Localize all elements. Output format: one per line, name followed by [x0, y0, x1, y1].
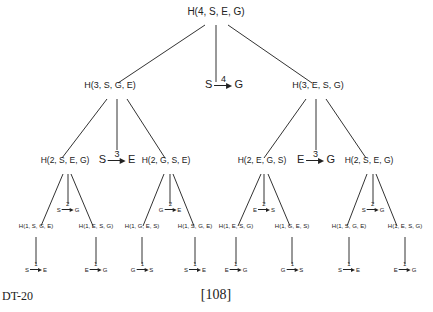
move-to-peg: G: [234, 78, 243, 90]
move-label: E1G: [85, 264, 108, 273]
level3-node: H(1, E, S, G): [219, 223, 253, 229]
move-from-peg: S: [25, 267, 29, 273]
right-arrow-icon: 3: [108, 153, 126, 165]
move-from-peg: E: [85, 267, 89, 273]
right-arrow-icon: 2: [367, 204, 379, 213]
move-to-peg: G: [243, 267, 248, 273]
move-to-peg: G: [103, 267, 108, 273]
move-label: G2E: [159, 204, 182, 213]
right-arrow-icon: 1: [30, 264, 42, 273]
level2-node: H(2, S, E, G): [41, 155, 90, 165]
move-step-number: 2: [66, 201, 69, 207]
move-label: S2G: [57, 204, 80, 213]
level3-node: H(1, E, S, G): [388, 223, 422, 229]
move-step-number: 1: [347, 261, 350, 267]
level2-node: H(2, G, S, E): [142, 155, 191, 165]
move-from-peg: E: [394, 267, 398, 273]
level3-node: H(1, S, G, E): [332, 223, 366, 229]
document-code: DT-20: [2, 289, 33, 304]
right-arrow-icon: 1: [90, 264, 102, 273]
move-to-peg: E: [202, 267, 206, 273]
right-arrow-icon: 2: [164, 204, 176, 213]
move-label: S4G: [205, 78, 243, 90]
move-label: S1E: [184, 264, 206, 273]
move-label: G1S: [131, 264, 154, 273]
move-from-peg: E: [297, 153, 304, 165]
level2-node: H(2, E, G, S): [238, 155, 287, 165]
move-label: E3G: [297, 153, 335, 165]
move-from-peg: S: [362, 207, 366, 213]
right-arrow-icon: 3: [306, 153, 324, 165]
move-label: G1S: [281, 264, 304, 273]
move-from-peg: G: [159, 207, 164, 213]
right-arrow-icon: 1: [189, 264, 201, 273]
level2-node: H(2, S, E, G): [345, 155, 394, 165]
root-node: H(4, S, E, G): [187, 6, 244, 17]
move-step-number: 2: [371, 201, 374, 207]
right-arrow-icon: 1: [136, 264, 148, 273]
move-from-peg: G: [131, 267, 136, 273]
level3-node: H(1, G, E, S): [275, 223, 309, 229]
move-step-number: 1: [193, 261, 196, 267]
right-arrow-icon: 1: [343, 264, 355, 273]
move-to-peg: E: [128, 153, 135, 165]
right-arrow-icon: 1: [399, 264, 411, 273]
move-to-peg: G: [412, 267, 417, 273]
move-from-peg: S: [338, 267, 342, 273]
move-from-peg: S: [99, 153, 106, 165]
right-arrow-icon: 2: [258, 204, 270, 213]
page-number: [108]: [201, 287, 231, 303]
move-from-peg: S: [184, 267, 188, 273]
move-to-peg: G: [380, 207, 385, 213]
right-arrow-icon: 4: [214, 78, 232, 90]
move-label: E2S: [253, 204, 275, 213]
level1-node: H(3, S, G, E): [84, 80, 136, 90]
move-from-peg: E: [253, 207, 257, 213]
move-step-number: 3: [313, 149, 318, 159]
move-step-number: 3: [114, 149, 119, 159]
move-step-number: 1: [34, 261, 37, 267]
move-to-peg: G: [75, 207, 80, 213]
move-to-peg: S: [299, 267, 303, 273]
move-to-peg: E: [177, 207, 181, 213]
move-label: S1E: [338, 264, 360, 273]
right-arrow-icon: 2: [62, 204, 74, 213]
move-to-peg: E: [43, 267, 47, 273]
move-to-peg: E: [356, 267, 360, 273]
move-step-number: 1: [403, 261, 406, 267]
level3-node: H(1, E, S, G): [79, 223, 113, 229]
level3-node: H(1, S, G, E): [178, 223, 212, 229]
move-to-peg: G: [326, 153, 335, 165]
move-from-peg: G: [281, 267, 286, 273]
move-label: S3E: [99, 153, 136, 165]
move-to-peg: S: [149, 267, 153, 273]
level3-node: H(1, G, E, S): [125, 223, 159, 229]
right-arrow-icon: 1: [230, 264, 242, 273]
move-from-peg: S: [205, 78, 212, 90]
move-step-number: 1: [94, 261, 97, 267]
move-step-number: 1: [234, 261, 237, 267]
move-from-peg: S: [57, 207, 61, 213]
move-step-number: 2: [169, 201, 172, 207]
move-label: S1E: [25, 264, 47, 273]
move-to-peg: S: [271, 207, 275, 213]
move-label: S2G: [362, 204, 385, 213]
move-from-peg: E: [225, 267, 229, 273]
move-step-number: 1: [141, 261, 144, 267]
level3-node: H(1, S, G, E): [19, 223, 53, 229]
move-step-number: 1: [291, 261, 294, 267]
right-arrow-icon: 1: [286, 264, 298, 273]
move-step-number: 2: [262, 201, 265, 207]
move-step-number: 4: [221, 74, 226, 84]
level1-node: H(3, E, S, G): [292, 80, 344, 90]
move-label: E1G: [394, 264, 417, 273]
move-label: E1G: [225, 264, 248, 273]
